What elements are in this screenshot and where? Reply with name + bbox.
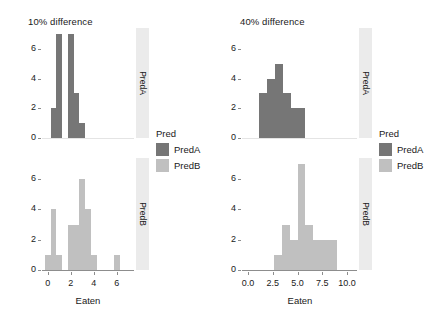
y-tick-label: 2 <box>12 234 36 244</box>
y-tick-label: 0 <box>212 132 236 142</box>
legend-label: PredB <box>397 159 423 172</box>
y-tick-label: 4 <box>212 73 236 83</box>
strip-label-text: PredB <box>138 202 148 226</box>
x-tick-label: 6 <box>97 278 137 288</box>
panel-title: 10% difference <box>28 16 93 27</box>
y-tick <box>238 270 241 271</box>
strip-label-text: PredA <box>138 71 148 95</box>
histogram-bar <box>56 34 62 138</box>
x-tick <box>322 272 323 275</box>
histogram-bar <box>79 123 85 138</box>
legend-swatch-preda <box>379 143 392 156</box>
x-tick-label: 10.0 <box>327 278 367 288</box>
histogram-bar <box>290 240 298 270</box>
histogram-bar <box>267 79 275 138</box>
strip-label-predb: PredB <box>359 158 372 270</box>
y-tick-label: 6 <box>212 173 236 183</box>
strip-label-preda: PredA <box>359 28 372 138</box>
y-tick-label: 6 <box>212 43 236 53</box>
y-tick-label: 0 <box>12 132 36 142</box>
y-tick <box>38 108 41 109</box>
y-tick <box>238 79 241 80</box>
y-tick <box>38 209 41 210</box>
facet-baseline <box>242 270 357 271</box>
y-tick-label: 2 <box>212 102 236 112</box>
legend-label: PredA <box>397 143 423 156</box>
panel-title: 40% difference <box>240 16 305 27</box>
histogram-bar <box>56 255 62 270</box>
histogram-bar <box>114 255 120 270</box>
legend-swatch-predb <box>156 159 169 172</box>
y-tick <box>238 49 241 50</box>
histogram-bar <box>274 255 282 270</box>
plot-right: 40% difference0246PredA0246PredB0.02.55.… <box>216 0 432 319</box>
legend-swatch-predb <box>379 159 392 172</box>
x-tick <box>347 272 348 275</box>
facet-baseline <box>42 138 134 139</box>
y-tick <box>38 138 41 139</box>
y-tick <box>238 209 241 210</box>
facet-baseline <box>242 138 357 139</box>
y-tick <box>238 179 241 180</box>
histogram-bar <box>259 93 267 138</box>
x-tick <box>48 272 49 275</box>
y-tick-label: 0 <box>12 264 36 274</box>
legend-title: Pred <box>156 128 176 139</box>
y-tick <box>38 49 41 50</box>
y-tick-label: 4 <box>212 203 236 213</box>
x-tick <box>94 272 95 275</box>
legend-label: PredA <box>174 143 200 156</box>
histogram-bar <box>91 255 97 270</box>
strip-label-preda: PredA <box>136 28 149 138</box>
figure-canvas: 10% difference0246PredA0246PredB0246Eate… <box>0 0 432 319</box>
legend-title: Pred <box>379 128 399 139</box>
strip-label-text: PredA <box>361 71 371 95</box>
strip-label-text: PredB <box>361 202 371 226</box>
x-axis-title: Eaten <box>48 295 128 306</box>
histogram-bar <box>305 225 313 270</box>
histogram-bar <box>275 64 283 138</box>
x-tick <box>273 272 274 275</box>
strip-label-predb: PredB <box>136 158 149 270</box>
facet-baseline <box>42 270 134 271</box>
plot-left: 10% difference0246PredA0246PredB0246Eate… <box>0 0 216 319</box>
y-tick-label: 6 <box>12 173 36 183</box>
y-tick-label: 6 <box>12 43 36 53</box>
y-tick <box>38 270 41 271</box>
y-tick-label: 4 <box>12 73 36 83</box>
y-tick <box>38 240 41 241</box>
x-tick <box>71 272 72 275</box>
y-tick <box>38 179 41 180</box>
y-tick-label: 4 <box>12 203 36 213</box>
y-tick <box>238 138 241 139</box>
x-tick <box>248 272 249 275</box>
x-axis-title: Eaten <box>260 295 340 306</box>
histogram-bar <box>298 164 306 270</box>
y-tick-label: 2 <box>12 102 36 112</box>
histogram-bar <box>282 225 290 270</box>
y-tick <box>238 108 241 109</box>
x-tick <box>117 272 118 275</box>
histogram-bar <box>291 108 306 138</box>
y-tick <box>38 79 41 80</box>
legend-swatch-preda <box>156 143 169 156</box>
histogram-bar <box>283 93 291 138</box>
y-tick-label: 2 <box>212 234 236 244</box>
y-tick <box>238 240 241 241</box>
y-tick-label: 0 <box>212 264 236 274</box>
histogram-bar <box>313 240 337 270</box>
legend-label: PredB <box>174 159 200 172</box>
x-tick <box>298 272 299 275</box>
